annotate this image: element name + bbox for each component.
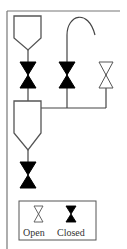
- valve-2-closed-icon[interactable]: [59, 62, 75, 88]
- top-hopper: [14, 16, 41, 50]
- valve-3-open-icon[interactable]: [99, 62, 113, 88]
- valve-1-closed-icon[interactable]: [20, 62, 36, 88]
- legend-open-label: Open: [23, 227, 45, 238]
- legend-closed-label: Closed: [57, 227, 85, 238]
- valve-diagram: Open Closed: [0, 0, 127, 249]
- lower-hopper: [14, 101, 41, 150]
- legend: Open Closed: [19, 201, 96, 240]
- valve-4-closed-icon[interactable]: [20, 162, 36, 188]
